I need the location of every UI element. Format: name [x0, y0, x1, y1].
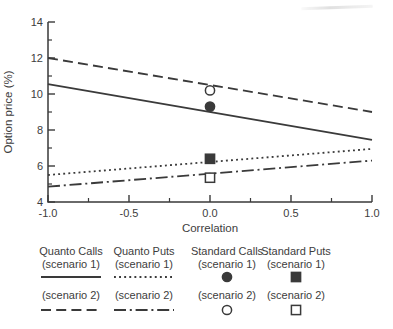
- legend-title: Quanto Calls: [29, 245, 113, 258]
- dashdot-line-sample: [102, 303, 186, 317]
- solid-line-sample: [29, 270, 113, 284]
- marker-open-circle-glyph: [196, 303, 258, 317]
- dashed-line-sample: [29, 303, 113, 317]
- quanto-option-price-chart: 468101214-1.0-0.50.00.51.0CorrelationOpt…: [0, 0, 393, 329]
- legend-title: Quanto Puts: [102, 245, 186, 258]
- y-tick-label: 14: [31, 16, 43, 28]
- marker-filled-circle-glyph: [196, 270, 258, 284]
- legend-scenario2-label: (scenario 2): [102, 289, 186, 302]
- marker-filled-square-glyph: [265, 270, 327, 284]
- point-standard-puts-scenario-1: [205, 154, 214, 163]
- legend-title: Standard Puts: [254, 245, 338, 258]
- x-tick-label: 0.5: [283, 207, 298, 219]
- line-dashed-glyph: [40, 303, 102, 317]
- x-tick-label: -1.0: [39, 207, 58, 219]
- line-dashdot-glyph: [113, 303, 175, 317]
- x-tick-label: 1.0: [364, 207, 379, 219]
- y-tick-label: 6: [37, 160, 43, 172]
- point-standard-puts-scenario-2: [205, 173, 214, 182]
- x-axis-label: Correlation: [182, 222, 238, 234]
- y-tick-label: 12: [31, 52, 43, 64]
- open-square-icon: [254, 303, 338, 317]
- x-tick-label: 0.0: [202, 207, 217, 219]
- legend-open-circle: [222, 305, 231, 314]
- legend-column-standard-puts: Standard Puts (scenario 1) (scenario 2): [254, 243, 338, 329]
- y-tick-label: 10: [31, 88, 43, 100]
- point-standard-calls-scenario-1: [205, 102, 214, 111]
- filled-square-icon: [254, 270, 338, 284]
- line-solid-glyph: [40, 270, 102, 284]
- y-tick-label: 8: [37, 124, 43, 136]
- legend-filled-circle: [222, 272, 231, 281]
- y-axis-label: Option price (%): [2, 70, 14, 153]
- chart-legend: Quanto Calls (scenario 1) (scenario 2) Q…: [0, 243, 393, 329]
- legend-open-square: [291, 305, 300, 314]
- legend-scenario2-label: (scenario 2): [29, 289, 113, 302]
- point-standard-calls-scenario-2: [205, 86, 214, 95]
- chart-plot-area: 468101214-1.0-0.50.00.51.0CorrelationOpt…: [0, 0, 393, 240]
- legend-scenario2-label: (scenario 2): [254, 289, 338, 302]
- dotted-line-sample: [102, 270, 186, 284]
- legend-column-quanto-calls: Quanto Calls (scenario 1) (scenario 2): [29, 243, 113, 329]
- line-dotted-glyph: [113, 270, 175, 284]
- legend-column-quanto-puts: Quanto Puts (scenario 1) (scenario 2): [102, 243, 186, 329]
- marker-open-square-glyph: [265, 303, 327, 317]
- legend-filled-square: [291, 272, 300, 281]
- x-tick-label: -0.5: [120, 207, 139, 219]
